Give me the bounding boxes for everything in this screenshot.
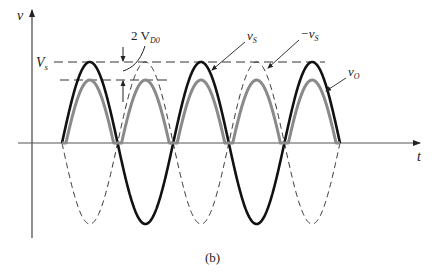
vo-curve-label: vO [348, 64, 360, 81]
vs-curve-label: vS [247, 28, 257, 45]
neg-vs-leader [268, 40, 299, 68]
full-wave-rectifier-waveform-diagram: v t Vs 2 VD0 vS −vS vO [0, 0, 437, 276]
figure-caption: (b) [205, 250, 220, 265]
t-axis-label: t [417, 149, 422, 164]
y-axis-label: v [17, 8, 24, 23]
vo-leader [326, 78, 346, 91]
vs-level-label: Vs [36, 55, 49, 72]
drop-label: 2 VD0 [131, 28, 160, 45]
vs-leader [212, 42, 245, 70]
neg-vs-curve-label: −vS [300, 26, 319, 43]
curve-labels: vS −vS vO [212, 26, 360, 91]
drop-leader-curve [123, 46, 145, 71]
